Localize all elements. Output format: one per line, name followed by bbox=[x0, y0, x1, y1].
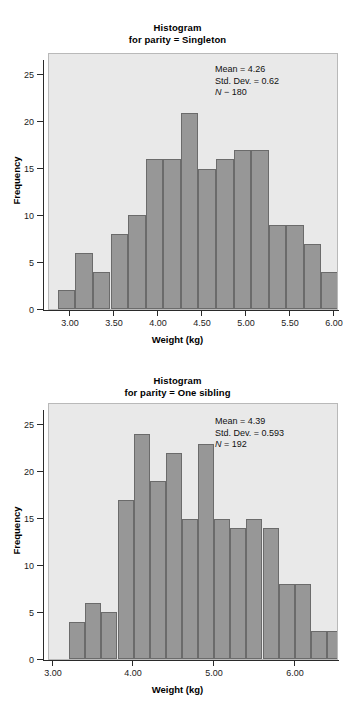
stat-mean-singleton: Mean = 4.26 bbox=[215, 64, 279, 76]
bar bbox=[304, 244, 322, 310]
plot-area-one-sibling: Mean = 4.39 Std. Dev. = 0.593 N = 192 bbox=[48, 403, 338, 660]
bar bbox=[251, 150, 269, 309]
xtick-label-3-00: 3.00 bbox=[55, 318, 85, 328]
bar bbox=[111, 234, 129, 309]
bar bbox=[85, 603, 101, 659]
bar bbox=[246, 519, 262, 659]
bar bbox=[146, 159, 164, 309]
bar bbox=[279, 584, 295, 659]
stat-std-singleton: Std. Dev. = 0.62 bbox=[215, 76, 279, 88]
bar bbox=[214, 519, 230, 659]
stat-mean-one-sibling: Mean = 4.39 bbox=[215, 416, 284, 428]
bar bbox=[295, 584, 311, 659]
y-axis-title-one-sibling: Frequency bbox=[11, 491, 22, 571]
xtick-label-3-00: 3.00 bbox=[38, 668, 68, 678]
bar bbox=[163, 159, 181, 309]
bar bbox=[198, 169, 216, 309]
plot-area-singleton: Mean = 4.26 Std. Dev. = 0.62 N − 180 bbox=[48, 53, 338, 310]
bar bbox=[128, 215, 146, 309]
bar bbox=[198, 444, 214, 659]
xtick-mark-6-00 bbox=[294, 661, 295, 666]
xtick-mark-3-00 bbox=[69, 311, 70, 316]
xtick-mark-3-50 bbox=[113, 311, 114, 316]
bar bbox=[230, 528, 246, 659]
xtick-label-4-50: 4.50 bbox=[187, 318, 217, 328]
xtick-mark-4-00 bbox=[157, 311, 158, 316]
ytick-label-0: 0 bbox=[6, 305, 34, 315]
bar bbox=[75, 253, 93, 309]
bar bbox=[166, 453, 182, 659]
bar bbox=[321, 272, 338, 309]
chart-panel-one-sibling: Histogram for parity = One sibling 25 20… bbox=[0, 355, 355, 710]
xtick-mark-5-00 bbox=[245, 311, 246, 316]
stat-std-one-sibling: Std. Dev. = 0.593 bbox=[215, 428, 284, 440]
y-axis-line-singleton bbox=[43, 60, 44, 310]
x-axis-line-singleton bbox=[43, 310, 339, 311]
ytick-label-25: 25 bbox=[6, 420, 34, 430]
ytick-label-0: 0 bbox=[6, 655, 34, 665]
chart-title-line2: for parity = One sibling bbox=[0, 387, 355, 399]
bar bbox=[93, 272, 111, 309]
ytick-label-20: 20 bbox=[6, 117, 34, 127]
figure-page: Histogram for parity = Singleton 25 20 1… bbox=[0, 0, 355, 710]
bar bbox=[263, 528, 279, 659]
bar bbox=[118, 500, 134, 659]
stats-annotation-singleton: Mean = 4.26 Std. Dev. = 0.62 N − 180 bbox=[215, 64, 279, 99]
ytick-label-25: 25 bbox=[6, 70, 34, 80]
bar bbox=[327, 631, 338, 659]
bar bbox=[58, 290, 76, 309]
bar-series-one-sibling bbox=[49, 404, 337, 659]
bar bbox=[182, 519, 198, 659]
xtick-mark-3-00 bbox=[52, 661, 53, 666]
x-axis-title-singleton: Weight (kg) bbox=[0, 334, 355, 345]
xtick-mark-5-00 bbox=[213, 661, 214, 666]
x-axis-title-one-sibling: Weight (kg) bbox=[0, 684, 355, 695]
stat-n-one-sibling: N = 192 bbox=[215, 439, 284, 451]
xtick-label-5-50: 5.50 bbox=[275, 318, 305, 328]
xtick-label-3-50: 3.50 bbox=[99, 318, 129, 328]
xtick-mark-6-00 bbox=[333, 311, 334, 316]
bar bbox=[286, 225, 304, 309]
bar-series-singleton bbox=[49, 54, 337, 309]
xtick-label-4-00: 4.00 bbox=[118, 668, 148, 678]
chart-title-singleton: Histogram for parity = Singleton bbox=[0, 22, 355, 46]
bar bbox=[234, 150, 252, 309]
bar bbox=[216, 159, 234, 309]
chart-title-line1: Histogram bbox=[0, 22, 355, 34]
xtick-label-6-00: 6.00 bbox=[280, 668, 310, 678]
y-axis-title-singleton: Frequency bbox=[11, 141, 22, 221]
stat-n-singleton: N − 180 bbox=[215, 87, 279, 99]
bar bbox=[269, 225, 287, 309]
xtick-label-5-00: 5.00 bbox=[199, 668, 229, 678]
chart-title-line1: Histogram bbox=[0, 375, 355, 387]
bar bbox=[311, 631, 327, 659]
xtick-label-4-00: 4.00 bbox=[143, 318, 173, 328]
stats-annotation-one-sibling: Mean = 4.39 Std. Dev. = 0.593 N = 192 bbox=[215, 416, 284, 451]
bar bbox=[150, 481, 166, 659]
ytick-label-5: 5 bbox=[6, 258, 34, 268]
ytick-label-20: 20 bbox=[6, 467, 34, 477]
chart-title-one-sibling: Histogram for parity = One sibling bbox=[0, 375, 355, 399]
y-axis-line-one-sibling bbox=[43, 410, 44, 660]
xtick-mark-4-50 bbox=[201, 311, 202, 316]
bar bbox=[134, 434, 150, 659]
stat-n-value: − 180 bbox=[222, 87, 247, 97]
xtick-label-5-00: 5.00 bbox=[231, 318, 261, 328]
ytick-label-5: 5 bbox=[6, 608, 34, 618]
xtick-label-6-00: 6.00 bbox=[319, 318, 349, 328]
chart-title-line2: for parity = Singleton bbox=[0, 34, 355, 46]
bar bbox=[69, 622, 85, 659]
xtick-mark-4-00 bbox=[132, 661, 133, 666]
bar bbox=[181, 113, 199, 310]
stat-n-value: = 192 bbox=[222, 439, 247, 449]
chart-panel-singleton: Histogram for parity = Singleton 25 20 1… bbox=[0, 0, 355, 355]
bar bbox=[101, 612, 117, 659]
xtick-mark-5-50 bbox=[289, 311, 290, 316]
